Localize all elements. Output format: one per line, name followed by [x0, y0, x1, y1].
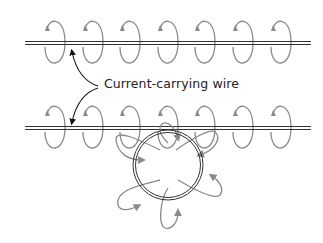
bottom-wire-field-lines	[45, 106, 291, 148]
top-wire-field-lines	[45, 21, 291, 63]
loop-field-lines	[116, 123, 222, 228]
wire-label: Current-carrying wire	[104, 76, 239, 91]
diagram-canvas	[0, 0, 323, 243]
current-loop	[133, 130, 203, 200]
bottom-wire	[25, 127, 311, 130]
magnetic-field-diagram: Current-carrying wire	[0, 0, 323, 243]
top-wire	[25, 42, 311, 45]
